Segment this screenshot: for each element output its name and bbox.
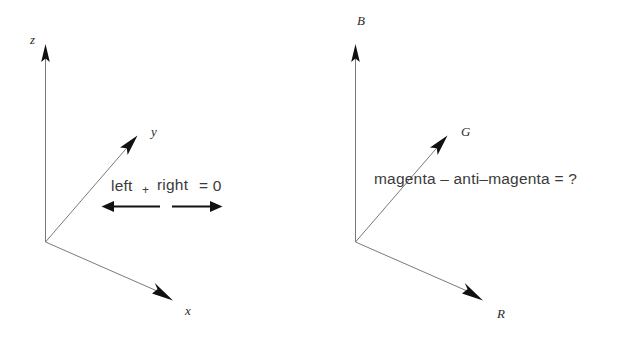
z-axis-label: z (29, 32, 35, 47)
g-axis-line (356, 143, 442, 242)
left-right-equation: left + right = 0 (111, 176, 222, 197)
equation-operator-plus: + (142, 183, 149, 197)
equation-equals-zero: = 0 (199, 177, 222, 194)
figure-root: z y x left + right = 0 (0, 0, 627, 338)
r-axis-label: R (496, 306, 505, 321)
x-axis-line (46, 242, 165, 294)
right-arrow-head (210, 201, 223, 212)
color-axes-diagram: z y x left + right = 0 (0, 0, 627, 338)
b-axis: B (351, 13, 365, 242)
magenta-equation: magenta – anti–magenta = ? (374, 170, 577, 187)
left-pointing-arrow (102, 201, 161, 212)
x-axis: x (46, 242, 192, 318)
r-axis-line (356, 242, 475, 294)
xyz-axes-panel: z y x left + right = 0 (29, 32, 223, 318)
g-axis-label: G (461, 124, 471, 139)
right-pointing-arrow (172, 201, 223, 212)
r-axis-arrowhead (462, 283, 483, 301)
z-axis: z (29, 32, 50, 242)
b-axis-label: B (357, 13, 365, 28)
y-axis-label: y (149, 124, 157, 139)
r-axis: R (356, 242, 506, 321)
equation-term-left: left (111, 177, 133, 194)
equation-term-right: right (157, 176, 189, 193)
x-axis-arrowhead (152, 283, 173, 301)
x-axis-label: x (184, 303, 191, 318)
rgb-axes-panel: B G R magenta – anti–magenta = ? (351, 13, 577, 321)
y-axis: y (46, 124, 158, 242)
left-arrow-head (102, 201, 115, 212)
magenta-equation-text: magenta – anti–magenta = ? (374, 170, 577, 187)
